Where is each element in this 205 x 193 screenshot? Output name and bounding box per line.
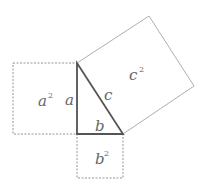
label-a-squared-exp: 2	[48, 91, 53, 100]
label-c-squared-exp: 2	[139, 65, 144, 74]
label-side-a: a	[65, 91, 74, 109]
label-c-squared-base: c	[129, 66, 138, 84]
label-a-squared-base: a	[38, 92, 47, 110]
pythagorean-diagram: a 2 a c b c 2 b 2	[0, 0, 205, 193]
label-b-squared-exp: 2	[104, 149, 109, 158]
label-side-b: b	[95, 117, 105, 135]
label-side-c: c	[104, 86, 113, 104]
diagram-svg: a 2 a c b c 2 b 2	[0, 0, 205, 193]
